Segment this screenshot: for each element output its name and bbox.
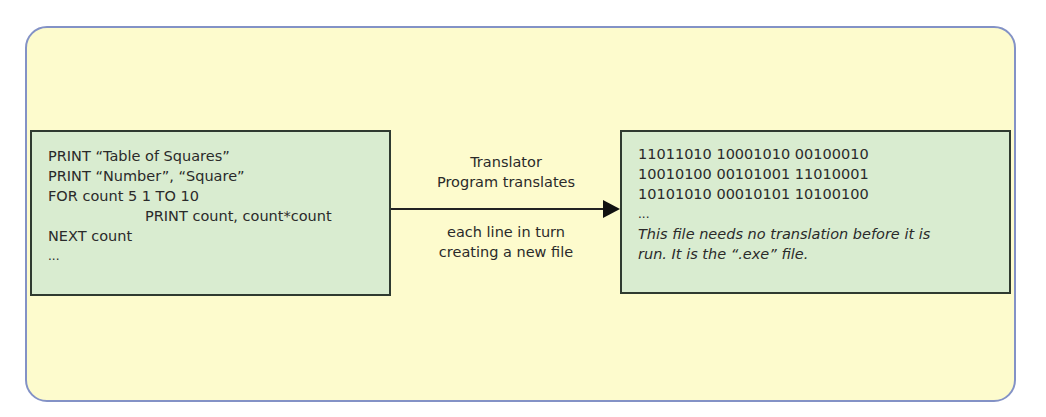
code-line: PRINT “Table of Squares”: [48, 146, 389, 166]
binary-line: 11011010 10001010 00100010: [638, 144, 1009, 164]
label-line: each line in turn: [391, 222, 621, 242]
code-line: NEXT count: [48, 226, 389, 246]
label-line: Program translates: [391, 172, 621, 192]
code-line: PRINT “Number”, “Square”: [48, 166, 389, 186]
binary-line: 10101010 00010101 10100100: [638, 184, 1009, 204]
code-line: PRINT count, count*count: [48, 206, 389, 226]
arrow-head-icon: [603, 200, 620, 218]
label-line: Translator: [391, 152, 621, 172]
code-line: FOR count 5 1 TO 10: [48, 186, 389, 206]
translation-description: each line in turn creating a new file: [391, 222, 621, 262]
machine-code-box: 11011010 10001010 00100010 10010100 0010…: [620, 130, 1011, 294]
binary-ellipsis: ...: [638, 204, 1009, 224]
translator-label: Translator Program translates: [391, 152, 621, 192]
source-code-box: PRINT “Table of Squares” PRINT “Number”,…: [30, 130, 391, 296]
note-line: run. It is the “.exe” file.: [638, 244, 1009, 264]
label-line: creating a new file: [391, 242, 621, 262]
code-ellipsis: ...: [48, 246, 389, 266]
binary-line: 10010100 00101001 11010001: [638, 164, 1009, 184]
note-line: This file needs no translation before it…: [638, 224, 1009, 244]
arrow-shaft: [391, 208, 605, 210]
